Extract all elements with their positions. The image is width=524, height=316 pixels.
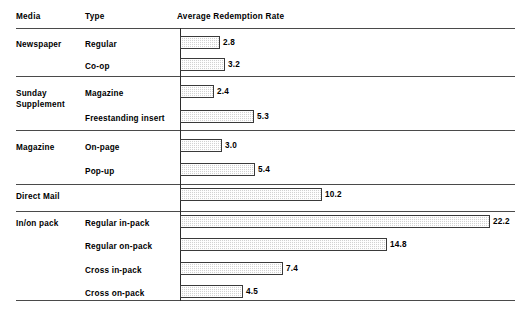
type-label-pop-up: Pop-up — [85, 167, 114, 177]
media-label-magazine: Magazine — [16, 143, 54, 154]
bar-value-cross-on-pack: 4.5 — [246, 287, 258, 297]
rule-group-directmail — [16, 211, 515, 212]
bar-value-newspaper-coop: 3.2 — [228, 60, 240, 70]
column-header-type: Type — [85, 12, 105, 22]
rule-group-magazine — [16, 184, 515, 185]
rule-group-sunday — [16, 130, 515, 131]
column-header-average-redemption-rate: Average Redemption Rate — [177, 12, 284, 22]
bar-value-sunday-freestanding: 5.3 — [257, 112, 269, 122]
type-label-regular-in-pack: Regular in-pack — [85, 219, 149, 229]
type-label-on-page: On-page — [85, 143, 120, 153]
bar-value-magazine-popup: 5.4 — [258, 165, 270, 175]
type-label-coop: Co-op — [85, 62, 110, 72]
bar-sunday-magazine — [180, 85, 214, 98]
media-label-newspaper: Newspaper — [16, 40, 61, 51]
bar-value-regular-on-pack: 14.8 — [390, 240, 407, 250]
redemption-rate-figure: Media Type Average Redemption Rate Newsp… — [0, 0, 524, 316]
rule-header — [16, 28, 515, 29]
rule-group-newspaper — [16, 76, 515, 77]
bar-newspaper-coop — [180, 58, 225, 71]
bar-value-magazine-onpage: 3.0 — [225, 141, 237, 151]
type-label-cross-in-pack: Cross in-pack — [85, 266, 142, 276]
bar-cross-on-pack — [180, 285, 243, 298]
type-label-regular: Regular — [85, 40, 117, 50]
bar-regular-in-pack — [180, 215, 490, 228]
media-label-sunday-supplement: Sunday Supplement — [16, 89, 65, 110]
bar-magazine-onpage — [180, 139, 222, 152]
type-label-magazine-insert: Magazine — [85, 89, 123, 99]
media-label-direct-mail: Direct Mail — [16, 192, 60, 203]
bar-newspaper-regular — [180, 36, 220, 49]
bar-value-newspaper-regular: 2.8 — [223, 38, 235, 48]
type-label-cross-on-pack: Cross on-pack — [85, 289, 144, 299]
bar-value-sunday-magazine: 2.4 — [217, 87, 229, 97]
bar-cross-in-pack — [180, 262, 283, 275]
type-label-freestanding-insert: Freestanding insert — [85, 114, 165, 124]
type-label-regular-on-pack: Regular on-pack — [85, 242, 152, 252]
bar-value-direct-mail: 10.2 — [325, 190, 342, 200]
bar-value-regular-in-pack: 22.2 — [493, 217, 510, 227]
rule-bottom — [16, 300, 515, 301]
bar-sunday-freestanding — [180, 110, 254, 123]
bar-regular-on-pack — [180, 238, 387, 251]
media-label-in-on-pack: In/on pack — [16, 219, 59, 230]
bar-value-cross-in-pack: 7.4 — [286, 264, 298, 274]
bar-direct-mail — [180, 188, 322, 201]
column-header-media: Media — [16, 12, 40, 22]
bar-magazine-popup — [180, 163, 255, 176]
